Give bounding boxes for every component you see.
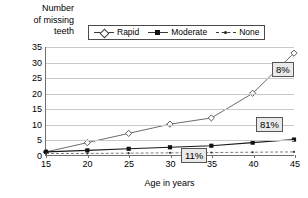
x-axis-title: Age in years [45,178,294,188]
x-axis-tick-label: 35 [207,160,217,169]
legend-item-moderate[interactable]: Moderate [148,28,207,37]
data-point-moderate [127,147,131,151]
legend-label-moderate: Moderate [171,28,207,37]
legend-label-rapid: Rapid [117,28,139,37]
gridline [46,94,294,95]
annotation-rapid-8-percent: 8% [272,62,294,77]
y-axis-tick-label: 15 [32,105,42,114]
gridline [46,63,294,64]
x-axis-tick-label: 20 [82,160,92,169]
y-axis-title-line-1: Number [2,3,74,15]
gridline [46,78,294,79]
x-axis-tick-label: 45 [290,160,300,169]
x-axis-tick-mark [129,155,130,158]
x-axis-tick-label: 40 [248,160,258,169]
y-axis-tick-label: 20 [32,89,42,98]
data-point-rapid [126,130,132,136]
data-point-moderate [168,145,172,149]
y-axis-tick-label: 30 [32,58,42,67]
annotation-none-11-percent: 11% [181,148,207,163]
data-point-moderate [85,148,89,152]
x-axis-tick-mark [212,155,213,158]
y-axis-tick-label: 10 [32,120,42,129]
legend-marker-filled-square-icon [148,28,168,37]
data-point-none [293,151,295,153]
legend-item-rapid[interactable]: Rapid [94,28,139,37]
x-axis-tick-mark [295,155,296,158]
data-point-none [169,152,171,154]
gridline [46,47,294,48]
x-axis-tick-mark [171,155,172,158]
x-axis-tick-label: 30 [165,160,175,169]
y-axis-tick-label: 25 [32,74,42,83]
gridline [46,109,294,110]
y-axis-tick-label: 5 [37,136,42,145]
x-axis-tick-mark [46,155,47,158]
data-point-rapid [208,115,214,121]
series-line-rapid [46,53,294,152]
data-point-none [210,151,212,153]
plot-area: 0510152025303515202530354045 [45,47,294,156]
gridline [46,140,294,141]
annotation-moderate-81-percent: 81% [256,117,283,132]
data-point-moderate [209,144,213,148]
missing-teeth-line-chart: Number of missing teeth Rapid Moderate N… [0,0,308,198]
chart-legend: Rapid Moderate None [88,25,265,40]
x-axis-tick-label: 15 [41,160,51,169]
y-axis-tick-label: 35 [32,43,42,52]
data-point-none [252,151,254,153]
x-axis-tick-mark [254,155,255,158]
legend-label-none: None [239,28,259,37]
y-axis-title-line-3: teeth [2,26,74,38]
y-axis-title-line-2: of missing [2,15,74,27]
legend-marker-open-diamond-icon [94,28,114,37]
x-axis-tick-label: 25 [124,160,134,169]
legend-marker-dot-dashed-icon [216,28,236,37]
legend-item-none[interactable]: None [216,28,259,37]
y-axis-title: Number of missing teeth [2,3,74,38]
x-axis-tick-mark [88,155,89,158]
data-point-none [128,152,130,154]
